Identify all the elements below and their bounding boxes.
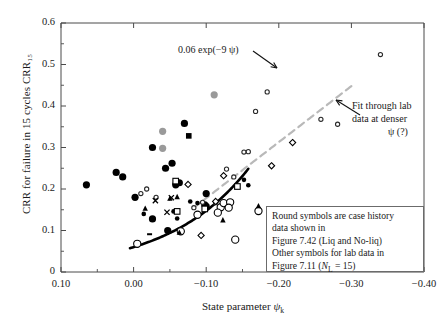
data-point (159, 128, 166, 135)
data-point (268, 163, 274, 169)
curve-annotation-arrow (253, 51, 277, 68)
data-point (173, 178, 179, 184)
data-point (162, 165, 169, 172)
data-point (143, 205, 148, 210)
y-tick-label: 0.5 (21, 58, 55, 69)
data-point (235, 184, 241, 190)
legend-line-1: Round symbols are case history (272, 210, 423, 222)
data-point (139, 191, 143, 195)
data-point (242, 178, 247, 183)
figure-container: CRR for failure in 15 cycles CRR₁₅ State… (0, 0, 445, 321)
data-point (194, 211, 201, 218)
data-point (134, 240, 141, 247)
data-point (220, 217, 225, 222)
lab-data-fit (194, 86, 352, 208)
data-point (246, 183, 251, 188)
data-point (221, 173, 227, 179)
data-point (200, 200, 204, 204)
data-point (203, 190, 210, 197)
x-tick-label: −0.30 (328, 278, 374, 289)
data-point (174, 194, 179, 199)
data-point (224, 167, 228, 171)
data-point (195, 201, 200, 206)
x-tick-label: −0.10 (183, 278, 229, 289)
data-point (149, 215, 156, 222)
y-tick-label: 0.2 (21, 182, 55, 193)
data-point (159, 145, 166, 152)
x-tick-label: −0.20 (256, 278, 302, 289)
data-point (83, 181, 90, 188)
data-point (246, 150, 250, 154)
data-point (319, 117, 323, 121)
data-point (181, 120, 188, 127)
y-tick-label: 0.6 (21, 16, 55, 27)
legend-line-3: Figure 7.42 (Liq and No-liq) (272, 235, 423, 247)
x-axis-label: State parameter ψk (61, 300, 425, 315)
lab-filled-square (186, 133, 192, 139)
data-point (174, 209, 180, 215)
data-point (141, 212, 146, 217)
data-point (119, 173, 126, 180)
data-point (145, 187, 149, 191)
data-point (131, 194, 138, 201)
data-point (232, 175, 236, 179)
dashed-annotation-arrow-head (336, 100, 342, 105)
data-point (214, 209, 221, 216)
dashed-fit-line1: Fit through lab (352, 100, 411, 111)
data-point (186, 133, 192, 139)
data-point (202, 206, 208, 212)
data-point (168, 160, 175, 167)
y-tick-label: 0.3 (21, 141, 55, 152)
legend-line-2: data shown in (272, 222, 423, 234)
data-point (164, 227, 171, 234)
data-point (192, 206, 196, 210)
curve-equation-annotation: 0.06 exp(−9 ψ) (178, 44, 239, 57)
x-tick-label: 0.00 (111, 278, 157, 289)
dashed-fit-line3: ψ (?) (352, 125, 444, 138)
data-point (149, 144, 156, 151)
data-point (175, 216, 180, 221)
data-point (256, 203, 261, 208)
data-point (164, 210, 169, 215)
data-point (232, 236, 239, 243)
data-point (265, 90, 269, 94)
data-point (198, 232, 204, 238)
data-point (113, 169, 120, 176)
legend-line-5: Figure 7.11 (NL = 15) (272, 260, 423, 276)
data-point (378, 52, 382, 56)
y-tick-label: 0.1 (21, 224, 55, 235)
legend-box: Round symbols are case history data show… (266, 206, 424, 272)
legend-line-4: Other symbols for lab data in (272, 247, 423, 259)
dashed-fit-line2: data at denser (352, 113, 407, 124)
data-point (242, 150, 246, 154)
annotation-arrows (253, 51, 360, 115)
data-point (211, 91, 218, 98)
data-point (253, 109, 257, 113)
data-point (185, 181, 191, 187)
y-tick-label: 0.4 (21, 99, 55, 110)
data-point (289, 139, 295, 145)
data-point (255, 207, 262, 214)
x-tick-label: −0.40 (401, 278, 445, 289)
y-tick-label: 0 (21, 265, 55, 276)
data-point (336, 122, 340, 126)
data-point (225, 204, 232, 211)
case-history-gray-filled-circle (159, 91, 218, 152)
psi-subscript: k (280, 306, 284, 315)
data-point (188, 199, 193, 204)
dashed-fit-annotation: Fit through lab data at denser ψ (?) (352, 99, 444, 138)
x-tick-label: 0.10 (38, 278, 84, 289)
